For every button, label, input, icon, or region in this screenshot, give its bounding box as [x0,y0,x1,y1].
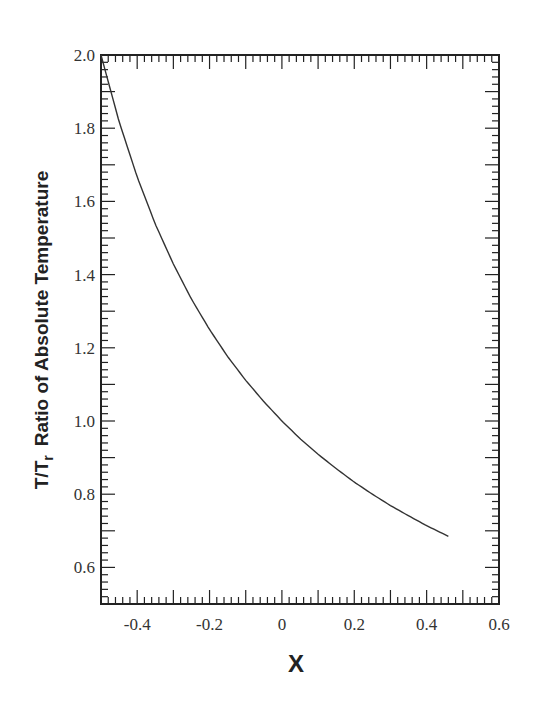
y-tick-label: 1.8 [74,119,95,138]
x-tick-label: 0.2 [344,615,365,634]
y-tick-label: 0.6 [74,558,95,577]
x-tick-label: -0.2 [196,615,223,634]
y-tick-label: 1.2 [74,339,95,358]
plot-frame [101,55,499,604]
y-tick-label: 2.0 [74,46,95,65]
y-tick-labels: 0.60.81.01.21.41.61.82.0 [74,46,96,577]
x-tick-label: -0.4 [124,615,151,634]
y-tick-label: 0.8 [74,485,95,504]
axis-ticks [101,55,499,604]
x-tick-labels: -0.4-0.200.20.40.6 [124,615,510,634]
chart-canvas: -0.4-0.200.20.40.6 0.60.81.01.21.41.61.8… [0,0,536,707]
x-tick-label: 0.6 [488,615,509,634]
y-axis-title-subscript: r [40,455,56,461]
y-axis-title-main: T/T [31,460,52,489]
y-axis-title: T/TrRatio of Absolute Temperature [31,171,56,489]
x-axis-title: X [288,650,304,677]
y-tick-label: 1.0 [74,412,95,431]
x-tick-label: 0.4 [416,615,438,634]
y-tick-label: 1.4 [74,266,96,285]
y-tick-label: 1.6 [74,192,95,211]
y-axis-title-rest: Ratio of Absolute Temperature [31,171,52,447]
x-tick-label: 0 [278,615,287,634]
data-series-line [101,55,448,536]
